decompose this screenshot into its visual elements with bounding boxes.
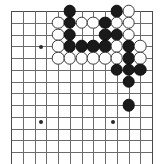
white-stone	[110, 16, 123, 29]
white-stone	[99, 52, 112, 65]
white-stone	[52, 52, 65, 65]
black-stone	[122, 63, 135, 76]
black-stone	[99, 40, 112, 53]
white-stone	[87, 16, 100, 29]
black-stone	[134, 63, 147, 76]
white-stone	[52, 40, 65, 53]
white-stone	[87, 52, 100, 65]
white-stone	[122, 28, 135, 41]
black-stone	[75, 40, 88, 53]
black-stone	[87, 40, 100, 53]
white-stone	[52, 28, 65, 41]
go-board-diagram	[0, 0, 163, 164]
white-stone	[75, 16, 88, 29]
white-stone	[52, 16, 65, 29]
black-stone	[110, 63, 123, 76]
white-stone	[110, 52, 123, 65]
black-stone	[122, 40, 135, 53]
black-stone	[110, 28, 123, 41]
black-stone	[122, 99, 135, 112]
black-stone	[99, 16, 112, 29]
black-stone	[63, 5, 76, 18]
white-stone	[134, 40, 147, 53]
white-stone	[122, 5, 135, 18]
white-stone	[110, 40, 123, 53]
black-stone	[63, 16, 76, 29]
black-stone	[110, 5, 123, 18]
black-stone	[122, 52, 135, 65]
black-stone	[63, 40, 76, 53]
white-stone	[63, 52, 76, 65]
white-stone	[134, 52, 147, 65]
black-stone	[122, 75, 135, 88]
white-stone	[122, 16, 135, 29]
black-stone	[99, 28, 112, 41]
black-stone	[63, 28, 76, 41]
white-stone	[75, 52, 88, 65]
board-stones	[0, 0, 163, 164]
